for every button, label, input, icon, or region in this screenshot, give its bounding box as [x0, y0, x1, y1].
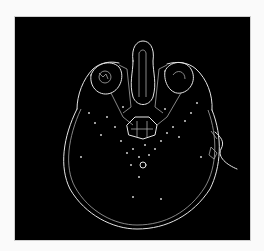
nose-outline — [131, 41, 155, 105]
right-cranium-edge — [167, 62, 212, 110]
right-orbit — [165, 62, 194, 93]
edge-detected-scan-image — [15, 17, 250, 240]
skull-inner-contour — [69, 109, 215, 225]
left-cranium-edge — [77, 62, 119, 109]
brainstem-region — [127, 117, 157, 139]
scan-edges — [15, 17, 250, 240]
skull-outer-contour — [64, 109, 220, 229]
left-orbit — [91, 63, 122, 94]
